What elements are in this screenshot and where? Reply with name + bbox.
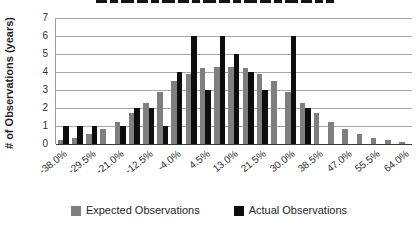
bar-actual <box>134 108 140 144</box>
bar-actual <box>92 126 98 144</box>
bar-actual <box>191 36 197 144</box>
bar-group <box>227 18 241 144</box>
bar-actual <box>234 54 240 144</box>
bar-group <box>398 18 412 144</box>
bar-group <box>270 18 284 144</box>
bar-expected <box>100 129 106 144</box>
bar-expected <box>271 81 277 144</box>
bar-actual <box>163 126 169 144</box>
bar-group <box>84 18 98 144</box>
y-tick-label: 1 <box>28 120 48 132</box>
bar-group <box>341 18 355 144</box>
y-axis-title: # of Observations (years) <box>3 10 15 156</box>
bar-group <box>369 18 383 144</box>
actual-series-swatch <box>234 206 244 216</box>
bar-chart: # of Observations (years) 01234567 -38.0… <box>0 0 418 230</box>
bar-group <box>99 18 113 144</box>
bar-group <box>70 18 84 144</box>
bar-actual <box>77 126 83 144</box>
legend-item-expected: Expected Observations <box>71 204 200 217</box>
bar-actual <box>120 126 126 144</box>
bar-actual <box>63 126 69 144</box>
bar-group <box>383 18 397 144</box>
bar-expected <box>328 122 334 144</box>
y-tick-label: 6 <box>28 30 48 42</box>
bar-group <box>312 18 326 144</box>
plot-area <box>55 18 412 144</box>
bar-expected <box>357 134 363 144</box>
bar-group <box>113 18 127 144</box>
bar-group <box>213 18 227 144</box>
bar-actual <box>177 72 183 144</box>
bar-expected <box>314 113 320 144</box>
bar-group <box>170 18 184 144</box>
bar-group <box>255 18 269 144</box>
expected-series-swatch <box>71 206 81 216</box>
bar-actual <box>205 90 211 144</box>
bar-group <box>184 18 198 144</box>
bar-actual <box>220 36 226 144</box>
bar-actual <box>262 90 268 144</box>
bar-group <box>326 18 340 144</box>
x-tick-label: 64.0% <box>355 148 411 195</box>
bar-group <box>127 18 141 144</box>
bar-group <box>56 18 70 144</box>
bar-group <box>355 18 369 144</box>
bar-actual <box>149 108 155 144</box>
y-tick-label: 2 <box>28 102 48 114</box>
bar-group <box>198 18 212 144</box>
legend-item-actual: Actual Observations <box>234 204 347 217</box>
bar-group <box>141 18 155 144</box>
y-tick-label: 3 <box>28 84 48 96</box>
bars-container <box>56 18 412 144</box>
expected-series-label: Expected Observations <box>86 204 200 217</box>
legend: Expected Observations Actual Observation… <box>0 204 418 217</box>
bar-group <box>156 18 170 144</box>
bar-group <box>284 18 298 144</box>
actual-series-label: Actual Observations <box>249 204 347 217</box>
clipped-chart-title <box>96 0 334 3</box>
bar-actual <box>305 108 311 144</box>
bar-actual <box>248 72 254 144</box>
y-tick-label: 7 <box>28 12 48 24</box>
y-tick-label: 5 <box>28 48 48 60</box>
y-tick-label: 4 <box>28 66 48 78</box>
bar-actual <box>291 36 297 144</box>
bar-expected <box>342 129 348 144</box>
y-tick-label: 0 <box>28 138 48 150</box>
bar-group <box>298 18 312 144</box>
x-axis-line <box>56 144 412 145</box>
bar-group <box>241 18 255 144</box>
